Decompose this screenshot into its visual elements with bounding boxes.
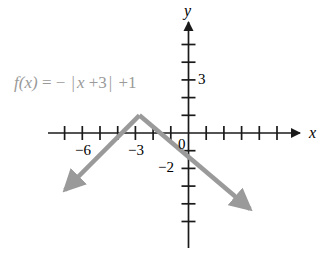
equation-var-x2: x xyxy=(77,73,85,92)
y-axis-label: y xyxy=(184,3,191,19)
plot-canvas xyxy=(0,0,328,267)
origin-label: 0 xyxy=(178,137,186,152)
function-equation-label: f(x) = − |x +3| +1 xyxy=(14,74,137,91)
equation-abs-close: | xyxy=(107,74,114,91)
x-tick-label-neg3: −3 xyxy=(128,143,144,158)
equation-one: 1 xyxy=(128,73,137,92)
graph-figure: f(x) = − |x +3| +1 y x −6 −3 0 3 −2 xyxy=(0,0,328,267)
equation-var-x1: x xyxy=(24,73,32,92)
equation-plus: + xyxy=(89,73,99,92)
equation-minus: − xyxy=(56,73,66,92)
x-tick-label-neg6: −6 xyxy=(75,143,91,158)
equation-close-paren: ) xyxy=(32,73,38,92)
equation-three: 3 xyxy=(98,73,107,92)
y-tick-label-3: 3 xyxy=(198,72,206,87)
y-tick-label-neg2: −2 xyxy=(158,160,174,175)
x-axis-label: x xyxy=(309,125,316,141)
equation-plus-2: + xyxy=(119,73,129,92)
equation-abs-open: | xyxy=(70,74,77,91)
equation-equals: = xyxy=(42,73,52,92)
